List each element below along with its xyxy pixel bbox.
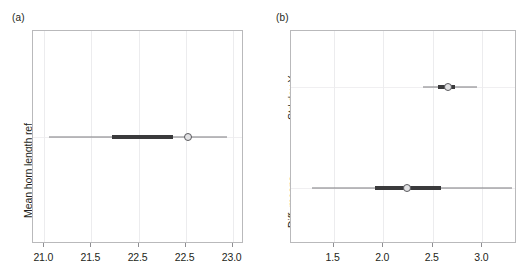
inner-interval-bar: [112, 135, 173, 139]
interval-plot-figure: (a) Mean horn length ref 21.021.522.522.…: [0, 0, 531, 278]
x-axis-tick-label: 21.0: [33, 251, 53, 263]
x-axis-tick-label: 2.0: [375, 251, 389, 263]
x-axis-tick-label: 22.5: [128, 251, 148, 263]
x-axis-tick-label: 2.5: [425, 251, 439, 263]
x-axis-tick-mark: [481, 243, 482, 247]
point-estimate-marker: [403, 184, 411, 192]
panel-a-tag: (a): [12, 12, 25, 23]
interval-row: [291, 181, 515, 195]
point-estimate-marker: [444, 83, 452, 91]
x-axis-tick-mark: [232, 243, 233, 247]
x-axis-tick-label: 21.5: [81, 251, 101, 263]
gridline-vertical: [482, 31, 483, 242]
x-axis-tick-label: 3.0: [474, 251, 488, 263]
interval-row: [291, 80, 515, 94]
x-axis-tick-label: 22.5: [175, 251, 195, 263]
gridline-vertical: [383, 31, 384, 242]
panel-b-plot-area: [290, 30, 516, 243]
gridline-vertical: [433, 31, 434, 242]
panel-b-tag: (b): [276, 12, 289, 23]
interval-row: [33, 130, 242, 144]
panel-a: (a) Mean horn length ref 21.021.522.522.…: [0, 0, 266, 278]
x-axis-tick-mark: [185, 243, 186, 247]
x-axis-tick-mark: [382, 243, 383, 247]
x-axis-tick-label: 23.0: [222, 251, 242, 263]
x-axis-tick-mark: [43, 243, 44, 247]
panel-b: (b) Std.dev Y Diff. means 1.52.02.53.0: [266, 0, 531, 278]
x-axis-tick-mark: [90, 243, 91, 247]
x-axis-tick-mark: [333, 243, 334, 247]
x-axis-tick-mark: [432, 243, 433, 247]
x-axis-tick-label: 1.5: [326, 251, 340, 263]
gridline-vertical: [334, 31, 335, 242]
panel-a-plot-area: [32, 30, 243, 243]
point-estimate-marker: [184, 133, 192, 141]
x-axis-tick-mark: [138, 243, 139, 247]
